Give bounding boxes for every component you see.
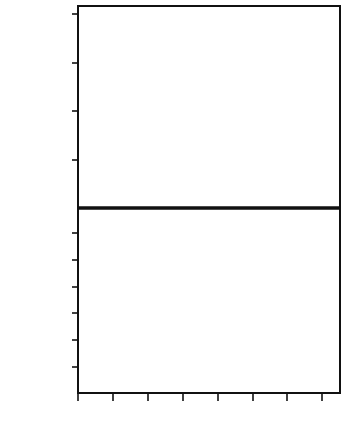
dual-panel-chart	[0, 0, 348, 445]
plot-frame	[78, 6, 340, 393]
x-axis-ticks	[78, 393, 322, 401]
